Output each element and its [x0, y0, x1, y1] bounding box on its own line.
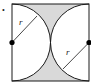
left-center-point	[9, 40, 14, 45]
left-radius-label: r	[19, 17, 23, 27]
right-radius-label: r	[66, 47, 70, 57]
item-marker: •	[2, 6, 5, 15]
geometry-diagram: • r r	[0, 0, 91, 83]
